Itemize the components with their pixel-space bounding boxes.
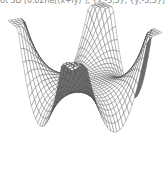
wireframe-surface [8,3,162,133]
surface-plot-3d[interactable] [0,0,167,178]
